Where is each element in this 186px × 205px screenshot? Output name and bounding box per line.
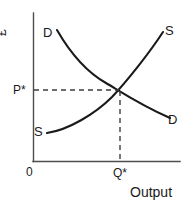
demand-curve [57,30,170,118]
supply-demand-chart: D S D S P* 0 Q* Output £ [0,0,186,205]
x-axis-title: Output [130,185,172,199]
origin-label: 0 [26,166,33,178]
equilibrium-quantity-label: Q* [113,167,127,179]
supply-curve-label-bottom: S [34,125,43,138]
y-axis-title: £ [0,29,8,36]
demand-curve-label-top: D [43,26,52,39]
equilibrium-price-label: P* [13,84,26,96]
demand-curve-label-bottom: D [168,113,177,126]
supply-curve-label-top: S [165,24,174,37]
